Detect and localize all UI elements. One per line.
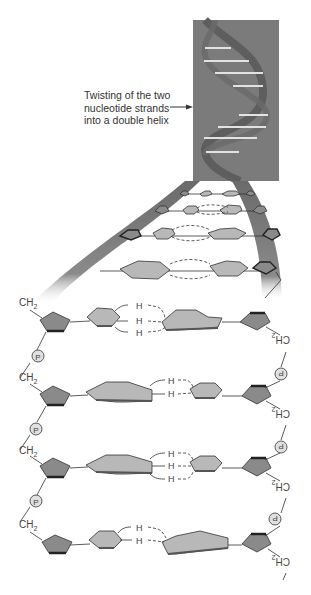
base-pair-3: H H H <box>40 449 271 484</box>
svg-text:CH2: CH2 <box>272 406 290 419</box>
svg-text:P: P <box>35 353 40 362</box>
phosphate-icon: P <box>269 513 281 525</box>
phosphate-icon: P <box>275 368 287 380</box>
base-pair-4: H H <box>42 523 271 554</box>
callout-line-2: nucleotide strands <box>84 102 170 115</box>
svg-text:H: H <box>168 461 175 471</box>
callout-line-3: into a double helix <box>84 114 170 127</box>
svg-text:H: H <box>136 328 143 338</box>
svg-text:CH2: CH2 <box>19 519 37 532</box>
svg-text:H: H <box>168 376 175 386</box>
right-phosphates: P P P <box>269 368 287 525</box>
base-pair-1: H H H <box>40 301 270 338</box>
phosphate-icon: P <box>275 441 287 453</box>
svg-text:P: P <box>278 442 283 451</box>
right-arrow-icon <box>186 105 193 110</box>
phosphate-icon: P <box>30 423 42 435</box>
svg-text:CH2: CH2 <box>19 297 37 310</box>
svg-text:P: P <box>33 426 38 435</box>
phosphate-icon: P <box>32 350 44 362</box>
svg-text:CH2: CH2 <box>19 445 37 458</box>
phosphate-icon: P <box>30 495 42 507</box>
svg-text:H: H <box>168 389 175 399</box>
svg-text:P: P <box>278 369 283 378</box>
svg-text:CH2: CH2 <box>272 332 290 345</box>
double-helix-box <box>193 20 279 181</box>
svg-text:CH2: CH2 <box>19 372 37 385</box>
svg-text:H: H <box>168 474 175 484</box>
svg-text:H: H <box>136 523 143 533</box>
svg-text:P: P <box>33 498 38 507</box>
helix-callout: Twisting of the two nucleotide strands i… <box>84 89 170 127</box>
svg-text:H: H <box>136 536 143 546</box>
svg-text:H: H <box>136 301 143 311</box>
svg-text:P: P <box>272 514 277 523</box>
svg-text:H: H <box>136 316 143 326</box>
svg-text:CH2: CH2 <box>272 554 290 567</box>
svg-text:H: H <box>168 449 175 459</box>
backbone-strands <box>30 181 282 305</box>
svg-text:CH2: CH2 <box>272 479 290 492</box>
callout-line-1: Twisting of the two <box>84 89 170 102</box>
base-pair-2: H H <box>40 376 271 405</box>
